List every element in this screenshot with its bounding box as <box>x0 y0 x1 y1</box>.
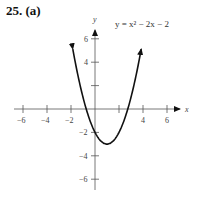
svg-text:4: 4 <box>141 116 145 125</box>
svg-text:−4: −4 <box>41 116 50 125</box>
svg-text:−6: −6 <box>79 175 88 184</box>
parabola-chart: x y −6−4−246−6−4−246 <box>0 0 197 197</box>
svg-text:y: y <box>92 15 97 24</box>
svg-text:x: x <box>184 105 189 114</box>
svg-text:−2: −2 <box>65 116 74 125</box>
svg-text:6: 6 <box>165 116 169 125</box>
svg-text:−6: −6 <box>17 116 26 125</box>
svg-text:4: 4 <box>84 58 88 67</box>
svg-text:−4: −4 <box>79 152 88 161</box>
svg-text:6: 6 <box>84 35 88 44</box>
svg-text:−2: −2 <box>79 128 88 137</box>
